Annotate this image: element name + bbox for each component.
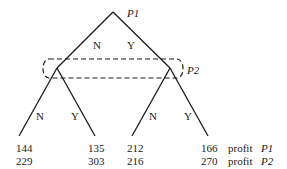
right-branch-y-label: Y <box>184 110 192 122</box>
payoff-p1-nn: 144 <box>16 142 33 154</box>
row-label-player-p1: P1 <box>260 142 273 154</box>
payoff-p1-yn: 212 <box>127 142 144 154</box>
left-branch-n <box>19 68 57 136</box>
row-label-word-p2: profit <box>228 155 252 167</box>
payoff-p1-ny: 135 <box>88 142 105 154</box>
root-branch-y-label: Y <box>127 39 135 51</box>
row-label-word-p1: profit <box>228 142 252 154</box>
info-set-player-label: P2 <box>186 64 200 76</box>
left-branch-y-label: Y <box>71 110 79 122</box>
payoff-p2-yy: 270 <box>201 155 218 167</box>
payoff-p2-nn: 229 <box>16 155 33 167</box>
game-tree-diagram: P1 N Y P2 N Y N Y 144 135 212 166 profit… <box>0 0 287 169</box>
left-branch-n-label: N <box>36 110 44 122</box>
payoff-p1-yy: 166 <box>201 142 218 154</box>
payoff-p2-ny: 303 <box>88 155 105 167</box>
root-branch-n-label: N <box>93 39 101 51</box>
row-label-player-p2: P2 <box>260 155 274 167</box>
right-branch-n-label: N <box>149 110 157 122</box>
root-player-label: P1 <box>126 7 139 19</box>
payoff-p2-yn: 216 <box>127 155 144 167</box>
